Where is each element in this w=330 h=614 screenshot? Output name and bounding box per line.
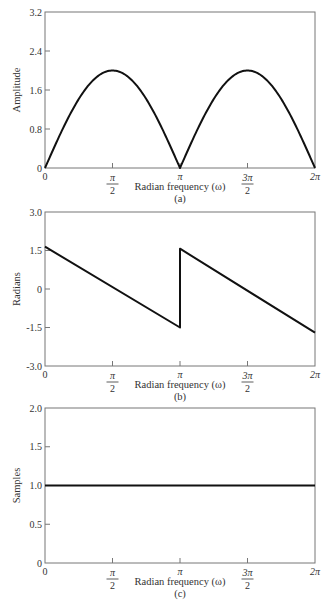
x-axis-title: Radian frequency (ω)	[135, 379, 226, 391]
x-tick-numerator: 3π	[241, 172, 253, 183]
x-tick-value: 0	[43, 566, 48, 577]
y-axis-title: Radians	[11, 272, 22, 306]
chart-panel-a: 00.81.62.43.20π2π3π22πRadian frequency (…	[11, 7, 321, 206]
y-axis-title: Samples	[11, 468, 22, 504]
y-tick-label: 2.4	[30, 46, 43, 57]
x-tick-numerator: π	[110, 172, 116, 183]
x-tick-label: π2	[107, 370, 119, 394]
y-tick-label: 1.5	[30, 441, 43, 452]
y-tick-label: 0	[37, 284, 42, 295]
x-tick-label: 3π2	[241, 172, 253, 196]
x-tick-denominator: 2	[110, 580, 115, 591]
y-tick-label: 1.5	[30, 245, 43, 256]
x-tick-label: π2	[107, 567, 119, 591]
y-tick-label: -3.0	[26, 361, 42, 372]
x-tick-label: 0	[43, 171, 48, 182]
y-tick-label: 1.6	[30, 85, 43, 96]
y-tick-label: 0	[37, 558, 42, 569]
chart-panel-b: -3.0-1.501.53.00π2π3π22πRadian frequency…	[11, 207, 321, 404]
x-tick-value: 0	[43, 369, 48, 380]
y-tick-label: -1.5	[26, 322, 42, 333]
x-tick-value: 0	[43, 171, 48, 182]
series-line-phase	[45, 247, 315, 333]
panel-caption: (a)	[174, 193, 186, 205]
y-axis-title: Amplitude	[11, 67, 22, 112]
x-tick-label: π2	[107, 172, 119, 196]
y-tick-label: 0	[37, 163, 42, 174]
x-tick-numerator: π	[110, 567, 116, 578]
series-line-magnitude	[45, 71, 315, 169]
x-tick-value: 2π	[310, 171, 321, 182]
y-tick-label: 3.2	[30, 7, 43, 18]
x-tick-label: 2π	[310, 171, 321, 182]
figure: 00.81.62.43.20π2π3π22πRadian frequency (…	[0, 0, 330, 614]
x-tick-numerator: π	[110, 370, 116, 381]
x-tick-denominator: 2	[245, 185, 250, 196]
x-tick-label: 3π2	[241, 370, 253, 394]
x-tick-label: 0	[43, 566, 48, 577]
x-tick-label: 0	[43, 369, 48, 380]
y-tick-label: 1.0	[30, 480, 43, 491]
x-tick-numerator: 3π	[241, 370, 253, 381]
chart-panel-c: 00.51.01.52.00π2π3π22πRadian frequency (…	[11, 403, 321, 601]
x-axis-title: Radian frequency (ω)	[135, 576, 226, 588]
y-tick-label: 0.8	[30, 124, 43, 135]
x-tick-denominator: 2	[110, 383, 115, 394]
x-tick-label: 2π	[310, 566, 321, 577]
panel-caption: (c)	[174, 588, 186, 600]
x-tick-value: 2π	[310, 369, 321, 380]
panel-caption: (b)	[174, 391, 187, 403]
y-tick-label: 2.0	[30, 403, 43, 414]
x-tick-label: 2π	[310, 369, 321, 380]
x-tick-denominator: 2	[245, 383, 250, 394]
x-tick-denominator: 2	[110, 185, 115, 196]
x-tick-denominator: 2	[245, 580, 250, 591]
x-tick-label: 3π2	[241, 567, 253, 591]
x-tick-value: 2π	[310, 566, 321, 577]
x-axis-title: Radian frequency (ω)	[135, 181, 226, 193]
x-tick-numerator: 3π	[241, 567, 253, 578]
y-tick-label: 0.5	[30, 519, 43, 530]
y-tick-label: 3.0	[30, 207, 43, 218]
